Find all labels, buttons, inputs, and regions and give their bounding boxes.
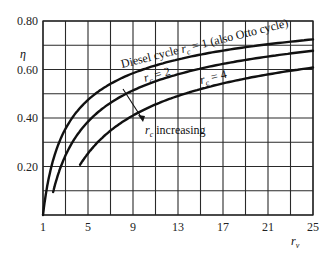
x-tick-label: 1: [40, 220, 46, 234]
x-axis-label: rv: [291, 234, 300, 250]
rc-increasing-label: rc increasing: [145, 123, 206, 139]
x-tick-label: 13: [172, 220, 184, 234]
x-tick-label: 21: [262, 220, 274, 234]
y-tick-label: 0.40: [17, 111, 38, 125]
y-axis-ticks: 0.200.400.600.80: [17, 14, 38, 174]
y-tick-label: 0.80: [17, 14, 38, 28]
x-axis-ticks: 15913172125: [40, 220, 319, 234]
x-tick-label: 25: [307, 220, 319, 234]
efficiency-chart: 0.200.400.600.80 15913172125 η rv Diesel…: [0, 0, 335, 260]
x-tick-label: 5: [85, 220, 91, 234]
y-tick-label: 0.20: [17, 160, 38, 174]
x-tick-label: 17: [217, 220, 229, 234]
x-tick-label: 9: [130, 220, 136, 234]
y-axis-label: η: [20, 47, 26, 61]
curve-rc-2: [53, 51, 313, 192]
y-tick-label: 0.60: [17, 63, 38, 77]
